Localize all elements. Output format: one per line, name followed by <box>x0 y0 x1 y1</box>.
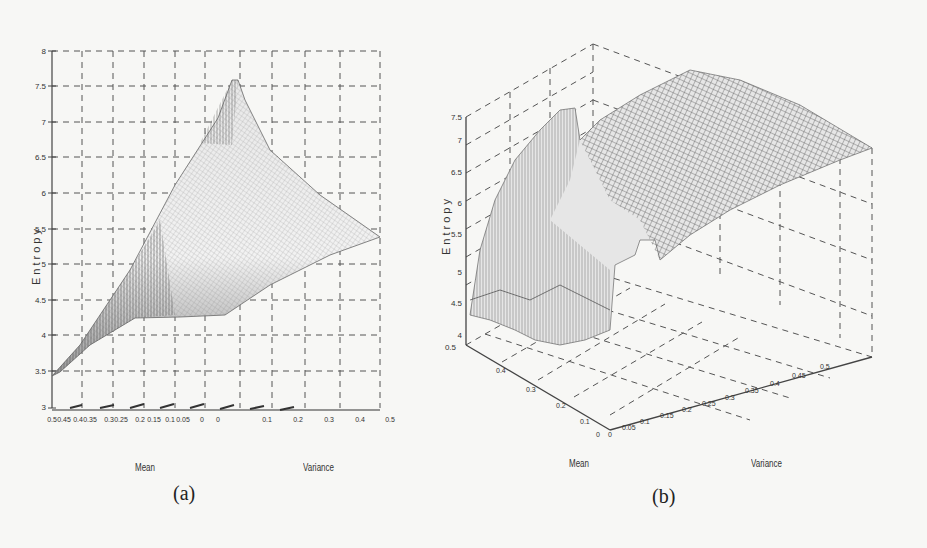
svg-text:4: 4 <box>42 331 47 340</box>
y-axis-label-a: Variance <box>303 462 334 473</box>
x-axis-label-a: Mean <box>135 462 155 473</box>
svg-text:0.25: 0.25 <box>114 416 128 423</box>
svg-text:7.5: 7.5 <box>35 82 47 91</box>
svg-text:0.15: 0.15 <box>147 416 161 423</box>
svg-text:0.4: 0.4 <box>73 416 83 423</box>
svg-text:0.2: 0.2 <box>556 402 566 409</box>
svg-text:0.3: 0.3 <box>104 416 114 423</box>
svg-text:0.1: 0.1 <box>262 416 272 423</box>
svg-text:6.5: 6.5 <box>35 153 47 162</box>
svg-text:5: 5 <box>458 268 463 277</box>
svg-text:4.5: 4.5 <box>35 296 47 305</box>
svg-text:0.1: 0.1 <box>165 416 175 423</box>
svg-text:0.3: 0.3 <box>324 416 334 423</box>
surface-plot-b: 7.57 6.56 5.55 4.54 0.5 0.40.3 0.20.1 00… <box>440 0 927 548</box>
svg-text:0.1: 0.1 <box>580 418 590 425</box>
svg-text:8: 8 <box>42 47 47 56</box>
surface-b <box>470 70 872 345</box>
svg-text:7.5: 7.5 <box>451 113 463 122</box>
svg-text:3: 3 <box>42 403 47 412</box>
svg-text:5.5: 5.5 <box>451 230 463 239</box>
svg-text:6: 6 <box>42 189 47 198</box>
svg-text:0.4: 0.4 <box>355 416 365 423</box>
svg-text:0.3: 0.3 <box>725 394 735 401</box>
svg-text:0: 0 <box>608 431 612 438</box>
svg-text:0.35: 0.35 <box>745 387 759 394</box>
figure-b: 7.57 6.56 5.55 4.54 0.5 0.40.3 0.20.1 00… <box>440 0 927 548</box>
svg-text:0.25: 0.25 <box>702 400 716 407</box>
surface-a <box>52 80 380 376</box>
z-axis-label-a: Entropy <box>30 226 42 285</box>
svg-text:0.5: 0.5 <box>820 363 830 370</box>
svg-text:6: 6 <box>458 199 463 208</box>
svg-text:0.35: 0.35 <box>83 416 97 423</box>
caption-a: (a) <box>173 482 195 505</box>
svg-text:0.5: 0.5 <box>385 416 395 423</box>
svg-text:0.4: 0.4 <box>770 380 780 387</box>
y-axis-label-b: Variance <box>751 458 782 469</box>
z-axis-label-b: Entropy <box>440 196 452 255</box>
svg-text:0.4: 0.4 <box>496 367 506 374</box>
svg-text:0.5: 0.5 <box>445 343 457 352</box>
svg-text:0: 0 <box>216 416 220 423</box>
svg-text:0.1: 0.1 <box>640 418 650 425</box>
svg-text:0.5: 0.5 <box>47 416 57 423</box>
svg-text:0: 0 <box>596 431 600 438</box>
svg-text:0.45: 0.45 <box>792 372 806 379</box>
svg-text:0.45: 0.45 <box>57 416 71 423</box>
base-mesh-a <box>52 404 380 410</box>
surface-plot-a: 87.5 76.5 65.5 54.5 43.5 3 <box>0 0 440 548</box>
svg-text:4: 4 <box>458 331 463 340</box>
svg-text:0.2: 0.2 <box>135 416 145 423</box>
svg-text:7: 7 <box>458 136 463 145</box>
svg-text:0.2: 0.2 <box>293 416 303 423</box>
svg-text:7: 7 <box>42 118 47 127</box>
svg-text:0.15: 0.15 <box>660 412 674 419</box>
x-axis-label-b: Mean <box>569 458 589 469</box>
figure-a: 87.5 76.5 65.5 54.5 43.5 3 <box>0 0 440 548</box>
svg-text:0: 0 <box>200 416 204 423</box>
svg-text:0.2: 0.2 <box>682 406 692 413</box>
svg-text:0.05: 0.05 <box>622 424 636 431</box>
caption-b: (b) <box>652 485 675 508</box>
svg-text:5: 5 <box>42 260 47 269</box>
svg-text:0.3: 0.3 <box>526 386 536 393</box>
svg-text:4.5: 4.5 <box>451 299 463 308</box>
svg-text:0.05: 0.05 <box>176 416 190 423</box>
svg-text:6.5: 6.5 <box>451 168 463 177</box>
svg-text:3.5: 3.5 <box>35 367 47 376</box>
